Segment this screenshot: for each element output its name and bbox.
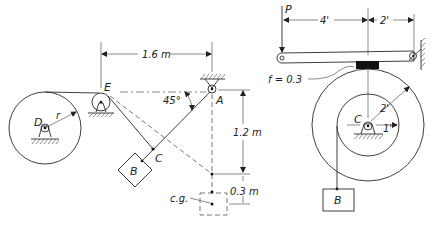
- cable-e-to-c: [108, 96, 153, 149]
- label-c-right: C: [354, 113, 362, 126]
- drum-d: D r: [9, 92, 81, 164]
- label-angle: 45°: [163, 95, 181, 106]
- support-a: A: [200, 74, 225, 107]
- brake-wheel: C 2' 1': [312, 69, 424, 181]
- brake-lever: [277, 38, 425, 70]
- label-c: C: [155, 152, 163, 165]
- mechanics-diagram: D r E: [0, 0, 434, 228]
- label-a: A: [215, 94, 224, 107]
- label-cg: c.g.: [170, 193, 188, 204]
- dimension-lever: 4' 2': [284, 8, 414, 55]
- dim-inner-radius: 1': [383, 123, 392, 134]
- dim-0-3m-label: 0.3 m: [230, 186, 259, 197]
- label-friction: f = 0.3: [268, 74, 302, 85]
- ground-hatch-d: [32, 139, 59, 144]
- brake-pad: [356, 61, 379, 69]
- right-figure: P 4' 2': [268, 3, 425, 211]
- label-e: E: [104, 81, 111, 94]
- dim-1-2m-label: 1.2 m: [233, 127, 262, 138]
- dim-1-6m-label: 1.6 m: [142, 49, 171, 60]
- dim-outer-radius: 2': [380, 103, 389, 114]
- dimension-1-6m: 1.6 m: [101, 42, 212, 88]
- label-b-left: B: [130, 165, 138, 178]
- dimension-0-3m: 0.3 m: [229, 176, 259, 204]
- label-d: D: [34, 116, 42, 129]
- dim-4ft-label: 4': [320, 15, 329, 26]
- label-b-right: B: [334, 194, 342, 207]
- label-r: r: [56, 110, 61, 121]
- dim-2ft-label: 2': [380, 15, 389, 26]
- left-figure: D r E: [9, 42, 262, 215]
- label-p: P: [285, 3, 292, 16]
